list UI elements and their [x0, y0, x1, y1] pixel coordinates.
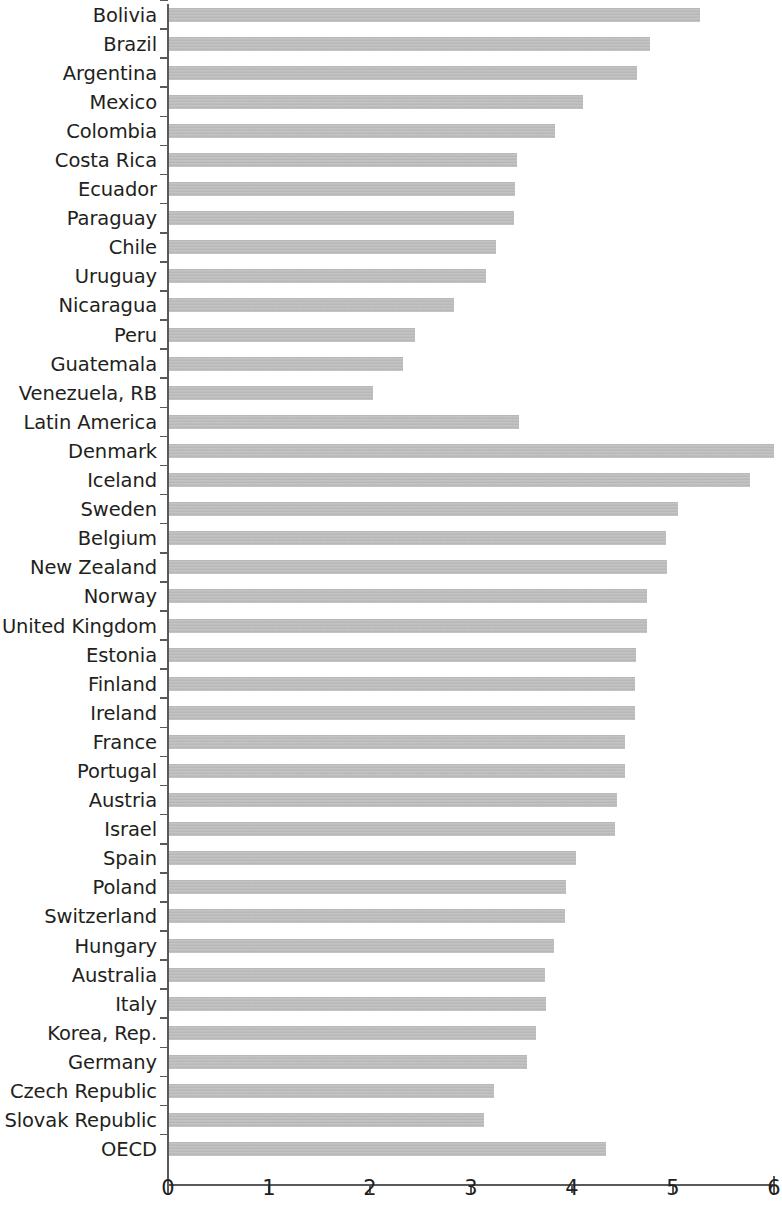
- bar: [168, 735, 625, 749]
- bar-row: Poland: [0, 873, 782, 902]
- category-label: Sweden: [0, 499, 168, 520]
- category-label: Austria: [0, 790, 168, 811]
- bar: [168, 909, 565, 923]
- bar: [168, 1055, 527, 1069]
- category-label: Estonia: [0, 644, 168, 665]
- category-label: Hungary: [0, 935, 168, 956]
- category-label: Colombia: [0, 120, 168, 141]
- category-label: Bolivia: [0, 4, 168, 25]
- y-axis-line: [167, 4, 169, 1184]
- bar: [168, 269, 486, 283]
- category-label: Venezuela, RB: [0, 382, 168, 403]
- bar: [168, 648, 636, 662]
- bar: [168, 328, 415, 342]
- bar-row: Italy: [0, 989, 782, 1018]
- category-label: Uruguay: [0, 266, 168, 287]
- bar: [168, 8, 700, 22]
- x-axis-tick-label: 5: [666, 1176, 679, 1200]
- bar: [168, 357, 403, 371]
- bar-row: Sweden: [0, 495, 782, 524]
- category-label: Slovak Republic: [0, 1110, 168, 1131]
- category-label: United Kingdom: [0, 615, 168, 636]
- bar: [168, 764, 625, 778]
- bar-row: Ireland: [0, 698, 782, 727]
- bar: [168, 706, 635, 720]
- category-label: Finland: [0, 673, 168, 694]
- bar-row: Uruguay: [0, 262, 782, 291]
- category-label: Korea, Rep.: [0, 1022, 168, 1043]
- bar-chart: BoliviaBrazilArgentinaMexicoColombiaCost…: [0, 0, 782, 1212]
- x-axis-tick-label: 1: [262, 1176, 275, 1200]
- category-label: Czech Republic: [0, 1081, 168, 1102]
- bar-row: Hungary: [0, 931, 782, 960]
- bar-row: Estonia: [0, 640, 782, 669]
- bar-row: Peru: [0, 320, 782, 349]
- bar-row: Latin America: [0, 407, 782, 436]
- bar-row: France: [0, 727, 782, 756]
- category-label: Brazil: [0, 33, 168, 54]
- bar-row: Israel: [0, 815, 782, 844]
- bar-row: Mexico: [0, 87, 782, 116]
- category-label: New Zealand: [0, 557, 168, 578]
- bar: [168, 939, 554, 953]
- bar: [168, 502, 678, 516]
- bar-row: Slovak Republic: [0, 1106, 782, 1135]
- bar-row: Switzerland: [0, 902, 782, 931]
- bar: [168, 589, 647, 603]
- bar-row: Portugal: [0, 756, 782, 785]
- bar-rows-container: BoliviaBrazilArgentinaMexicoColombiaCost…: [0, 0, 782, 1164]
- category-label: Guatemala: [0, 353, 168, 374]
- x-axis-tick-label: 2: [363, 1176, 376, 1200]
- bar: [168, 298, 454, 312]
- bar: [168, 211, 514, 225]
- category-label: Peru: [0, 324, 168, 345]
- bar: [168, 1142, 606, 1156]
- bar-row: Nicaragua: [0, 291, 782, 320]
- category-label: Belgium: [0, 528, 168, 549]
- category-label: Iceland: [0, 470, 168, 491]
- category-label: Germany: [0, 1051, 168, 1072]
- bar: [168, 66, 637, 80]
- bar: [168, 95, 583, 109]
- bar: [168, 1026, 536, 1040]
- bar-row: Iceland: [0, 466, 782, 495]
- bar: [168, 415, 519, 429]
- category-label: Paraguay: [0, 208, 168, 229]
- bar: [168, 240, 496, 254]
- category-label: Israel: [0, 819, 168, 840]
- bar: [168, 531, 666, 545]
- bar-row: Colombia: [0, 116, 782, 145]
- bar-row: Guatemala: [0, 349, 782, 378]
- bar-row: Germany: [0, 1047, 782, 1076]
- bar: [168, 968, 545, 982]
- bar-row: Finland: [0, 669, 782, 698]
- category-label: Nicaragua: [0, 295, 168, 316]
- bar-row: Bolivia: [0, 0, 782, 29]
- bar-row: Australia: [0, 960, 782, 989]
- bar-row: Chile: [0, 233, 782, 262]
- bar-row: Venezuela, RB: [0, 378, 782, 407]
- bar: [168, 182, 515, 196]
- bar: [168, 386, 373, 400]
- bar: [168, 880, 566, 894]
- bar: [168, 997, 546, 1011]
- bar-row: Denmark: [0, 436, 782, 465]
- category-label: Mexico: [0, 91, 168, 112]
- bar: [168, 619, 647, 633]
- x-axis-tick-label: 3: [464, 1176, 477, 1200]
- bar-row: Korea, Rep.: [0, 1018, 782, 1047]
- category-label: Portugal: [0, 760, 168, 781]
- category-label: Spain: [0, 848, 168, 869]
- category-label: Australia: [0, 964, 168, 985]
- bar: [168, 37, 650, 51]
- bar-row: Belgium: [0, 524, 782, 553]
- bar-row: Norway: [0, 582, 782, 611]
- bar-row: Argentina: [0, 58, 782, 87]
- bar-row: New Zealand: [0, 553, 782, 582]
- bar: [168, 560, 667, 574]
- category-label: Costa Rica: [0, 150, 168, 171]
- x-axis-tick-label: 6: [767, 1176, 780, 1200]
- bar: [168, 793, 617, 807]
- bar: [168, 677, 635, 691]
- category-label: Ireland: [0, 702, 168, 723]
